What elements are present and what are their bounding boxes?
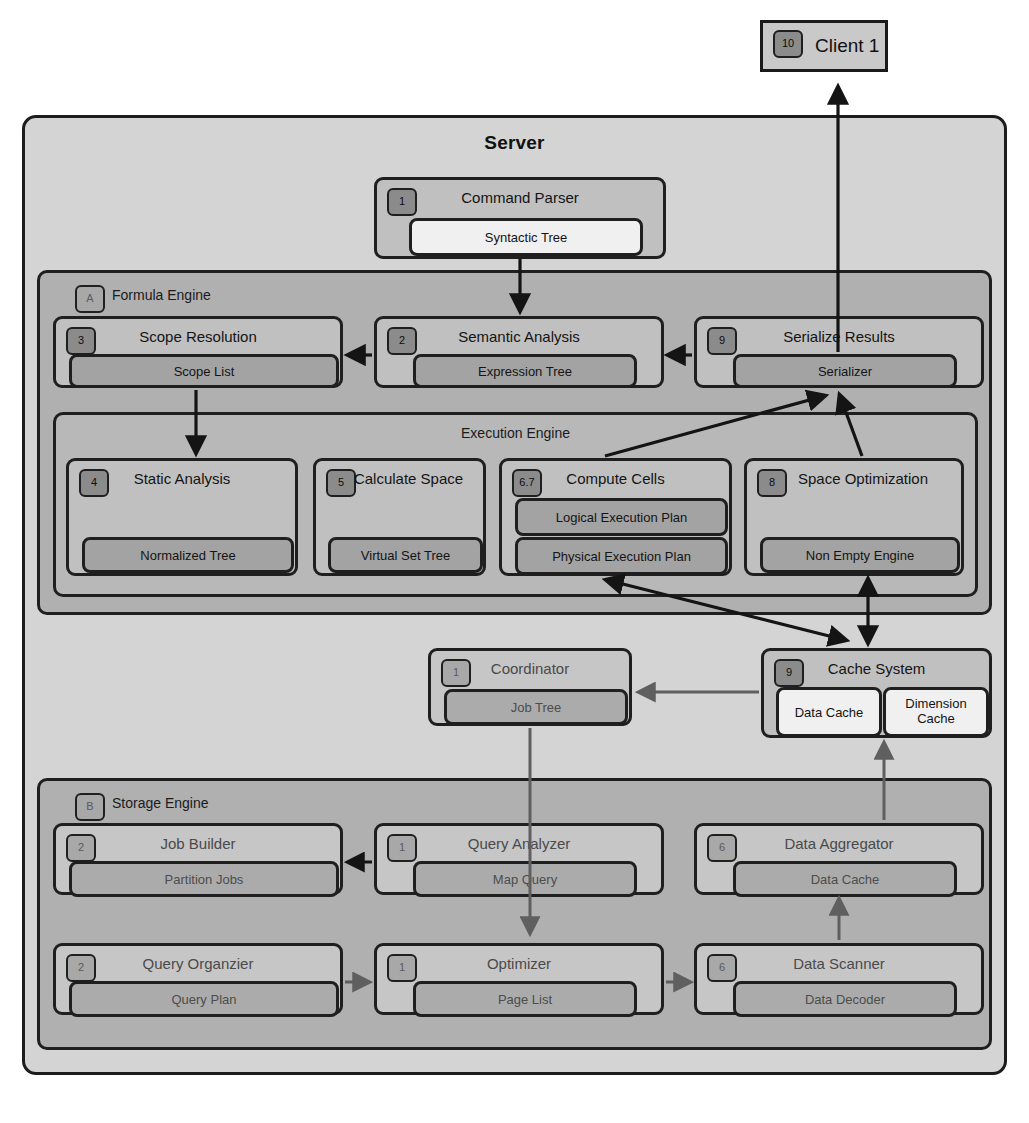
serialize-results-title: Serialize Results bbox=[697, 328, 981, 345]
compute-cells-title: Compute Cells bbox=[502, 470, 729, 487]
client-box[interactable]: 10 Client 1 bbox=[760, 20, 888, 72]
page-list-pill: Page List bbox=[413, 981, 637, 1017]
storage-engine-badge: B bbox=[75, 793, 105, 821]
data-aggregator-card[interactable]: 6 Data Aggregator Data Cache bbox=[694, 823, 984, 895]
client-badge: 10 bbox=[773, 30, 803, 58]
space-optimization-title: Space Optimization bbox=[765, 470, 961, 487]
calculate-space-card[interactable]: 5 Calculate Space Virtual Set Tree bbox=[313, 458, 486, 576]
calculate-space-title: Calculate Space bbox=[334, 470, 483, 487]
server-title: Server bbox=[25, 132, 1004, 154]
cache-system-title: Cache System bbox=[764, 660, 989, 677]
job-builder-title: Job Builder bbox=[56, 835, 340, 852]
serializer-pill: Serializer bbox=[733, 354, 957, 388]
scope-list-pill: Scope List bbox=[69, 354, 339, 388]
job-tree-pill: Job Tree bbox=[444, 689, 628, 725]
query-analyzer-title: Query Analyzer bbox=[377, 835, 661, 852]
cache-system-card[interactable]: 9 Cache System Data Cache Dimension Cach… bbox=[761, 648, 992, 738]
formula-engine-label: Formula Engine bbox=[112, 287, 211, 303]
optimizer-title: Optimizer bbox=[377, 955, 661, 972]
formula-engine-badge: A bbox=[75, 285, 105, 313]
virtual-set-tree-pill: Virtual Set Tree bbox=[328, 537, 483, 573]
non-empty-engine-pill: Non Empty Engine bbox=[760, 537, 960, 573]
scope-resolution-title: Scope Resolution bbox=[56, 328, 340, 345]
client-label: Client 1 bbox=[815, 35, 879, 57]
semantic-analysis-title: Semantic Analysis bbox=[377, 328, 661, 345]
command-parser-title: Command Parser bbox=[377, 189, 663, 206]
normalized-tree-pill: Normalized Tree bbox=[82, 537, 294, 573]
data-cache-pill: Data Cache bbox=[776, 687, 882, 737]
coordinator-card[interactable]: 1 Coordinator Job Tree bbox=[428, 648, 632, 726]
query-organizer-card[interactable]: 2 Query Organzier Query Plan bbox=[53, 943, 343, 1015]
query-plan-pill: Query Plan bbox=[69, 981, 339, 1017]
expression-tree-pill: Expression Tree bbox=[413, 354, 637, 388]
map-query-pill: Map Query bbox=[413, 861, 637, 897]
query-organizer-title: Query Organzier bbox=[56, 955, 340, 972]
static-analysis-card[interactable]: 4 Static Analysis Normalized Tree bbox=[66, 458, 298, 576]
syntactic-tree-pill: Syntactic Tree bbox=[409, 218, 643, 256]
data-aggregator-title: Data Aggregator bbox=[697, 835, 981, 852]
compute-cells-card[interactable]: 6.7 Compute Cells Logical Execution Plan… bbox=[499, 458, 732, 576]
physical-execution-plan-pill: Physical Execution Plan bbox=[515, 537, 728, 575]
execution-engine-label: Execution Engine bbox=[56, 425, 975, 441]
semantic-analysis-card[interactable]: 2 Semantic Analysis Expression Tree bbox=[374, 316, 664, 388]
data-decoder-pill: Data Decoder bbox=[733, 981, 957, 1017]
command-parser-card[interactable]: 1 Command Parser Syntactic Tree bbox=[374, 177, 666, 259]
space-optimization-card[interactable]: 8 Space Optimization Non Empty Engine bbox=[744, 458, 964, 576]
job-builder-card[interactable]: 2 Job Builder Partition Jobs bbox=[53, 823, 343, 895]
static-analysis-title: Static Analysis bbox=[69, 470, 295, 487]
query-analyzer-card[interactable]: 1 Query Analyzer Map Query bbox=[374, 823, 664, 895]
data-scanner-card[interactable]: 6 Data Scanner Data Decoder bbox=[694, 943, 984, 1015]
storage-engine-label: Storage Engine bbox=[112, 795, 209, 811]
logical-execution-plan-pill: Logical Execution Plan bbox=[515, 498, 728, 536]
scope-resolution-card[interactable]: 3 Scope Resolution Scope List bbox=[53, 316, 343, 388]
coordinator-title: Coordinator bbox=[431, 660, 629, 677]
serialize-results-card[interactable]: 9 Serialize Results Serializer bbox=[694, 316, 984, 388]
dimension-cache-pill: Dimension Cache bbox=[883, 687, 989, 737]
data-cache-agg-pill: Data Cache bbox=[733, 861, 957, 897]
partition-jobs-pill: Partition Jobs bbox=[69, 861, 339, 897]
data-scanner-title: Data Scanner bbox=[697, 955, 981, 972]
architecture-diagram: 10 Client 1 Server 1 Command Parser Synt… bbox=[0, 0, 1029, 1123]
optimizer-card[interactable]: 1 Optimizer Page List bbox=[374, 943, 664, 1015]
